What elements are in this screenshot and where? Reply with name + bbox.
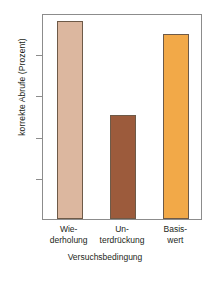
y-axis-title: korrekte Abrufe (Prozent) [17, 0, 27, 177]
x-axis-tick-label-line: Basis- [149, 224, 202, 235]
x-axis-tick-label: Wie-derholung [42, 224, 95, 246]
bar-chart-figure: korrekte Abrufe (Prozent) 1009590858075 … [0, 0, 210, 284]
x-axis-tick-label-line: Wie- [42, 224, 95, 235]
x-axis-tick-label-line: Un- [95, 224, 148, 235]
x-axis-tick-label-line: wert [149, 235, 202, 246]
x-axis-tick-label-line: derholung [42, 235, 95, 246]
x-axis-tick-label-line: terdrückung [95, 235, 148, 246]
x-axis-tick-label: Un-terdrückung [95, 224, 148, 246]
bar [57, 21, 83, 219]
x-axis-title: Versuchsbedingung [0, 252, 210, 262]
plot-area [42, 14, 202, 220]
bar [110, 115, 136, 219]
x-axis-tick-label: Basis-wert [149, 224, 202, 246]
bar [163, 34, 189, 219]
